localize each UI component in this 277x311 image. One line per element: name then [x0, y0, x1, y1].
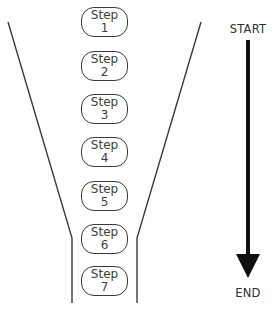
step-number: 1 — [101, 22, 109, 35]
start-label: START — [228, 22, 268, 36]
step-number: 7 — [101, 281, 109, 294]
step-box-6: Step 6 — [81, 224, 128, 254]
step-number: 2 — [101, 66, 109, 79]
step-number: 4 — [101, 152, 109, 165]
step-number: 3 — [101, 109, 109, 122]
end-label: END — [230, 286, 266, 300]
step-number: 6 — [101, 239, 109, 252]
step-box-5: Step 5 — [81, 181, 128, 211]
step-number: 5 — [101, 196, 109, 209]
step-box-3: Step 3 — [81, 94, 128, 124]
step-box-7: Step 7 — [81, 266, 128, 296]
funnel-right-edge — [137, 22, 201, 303]
step-box-4: Step 4 — [81, 137, 128, 167]
arrow-shaft — [246, 40, 250, 258]
arrow-down-icon — [236, 254, 260, 278]
funnel-outline — [0, 0, 277, 311]
funnel-left-edge — [8, 22, 72, 303]
funnel-diagram: Step 1 Step 2 Step 3 Step 4 Step 5 Step … — [0, 0, 277, 311]
step-box-2: Step 2 — [81, 51, 128, 81]
step-box-1: Step 1 — [81, 7, 128, 37]
